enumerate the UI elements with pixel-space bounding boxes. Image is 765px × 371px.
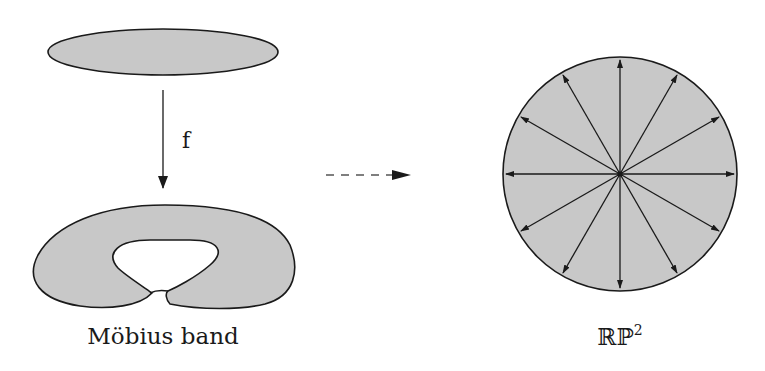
- rp2-label-main: ℝℙ: [597, 324, 633, 350]
- rp2-label-superscript: 2: [634, 322, 643, 338]
- rp2-label: ℝℙ2: [597, 322, 642, 350]
- map-label-f: f: [182, 128, 190, 153]
- mobius-band-label: Möbius band: [87, 323, 238, 349]
- map-arrow-f: [158, 90, 168, 189]
- dashed-arrow: [326, 170, 411, 180]
- disk-ellipse: [48, 29, 278, 75]
- mobius-band-shape: [33, 205, 294, 309]
- rp2-disk: [503, 57, 737, 291]
- diagram-canvas: [0, 0, 765, 371]
